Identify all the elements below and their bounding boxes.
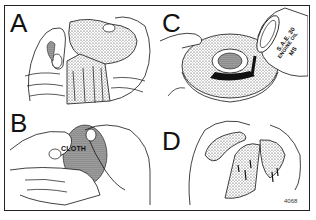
cloth-wrapping-illustration	[5, 110, 155, 210]
panel-c: C S.A.E. 30 ENGINE OIL MS	[160, 6, 308, 106]
wringing-element-illustration	[5, 6, 155, 106]
cloth-callout: CLOTH	[61, 145, 86, 152]
figure-number: 4068	[284, 198, 297, 204]
panel-b: B CLOTH	[5, 110, 155, 210]
panel-d: D 4068	[160, 110, 308, 210]
squeezing-element-illustration	[160, 110, 308, 210]
panel-a: A	[5, 6, 155, 106]
oiling-element-illustration	[160, 6, 308, 106]
